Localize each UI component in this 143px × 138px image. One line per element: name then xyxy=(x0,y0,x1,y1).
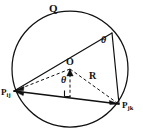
radius-label-r: R xyxy=(89,71,96,81)
geometry-diagram: Q O R θ θ Pij Pjk xyxy=(0,0,143,138)
point-label-pjk: Pjk xyxy=(122,101,134,110)
point-label-pij-base: P xyxy=(1,87,7,97)
inscribed-angle-label-theta: θ xyxy=(101,35,106,45)
center-label-o: O xyxy=(66,57,74,67)
geometry-canvas xyxy=(0,0,143,138)
circle-label-q: Q xyxy=(49,3,58,14)
point-label-pij: Pij xyxy=(1,88,11,97)
central-angle-label-theta: θ xyxy=(61,75,66,85)
point-label-pij-subscript: ij xyxy=(7,91,11,98)
chord-apex-pjk xyxy=(112,33,119,104)
point-label-pjk-subscript: jk xyxy=(128,104,134,111)
point-label-pjk-base: P xyxy=(122,100,128,110)
